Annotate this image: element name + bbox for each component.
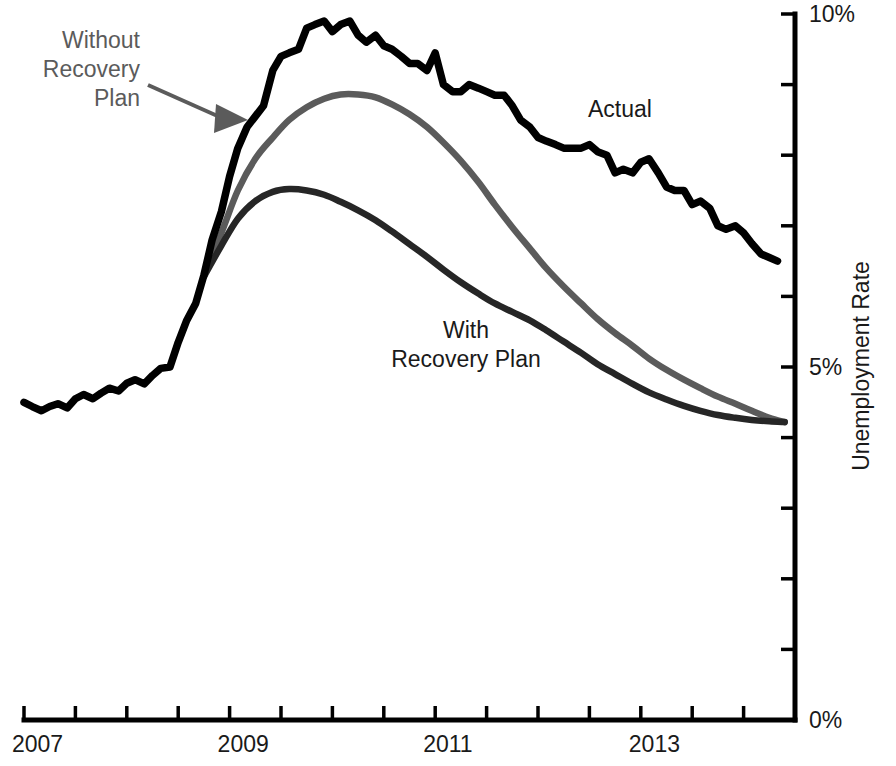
annotation-without-recovery-plan-line3: Plan (94, 85, 140, 111)
annotation-actual: Actual (588, 96, 652, 122)
y-tick-label: 0% (809, 707, 842, 733)
annotation-without-recovery-plan-line2: Recovery (43, 56, 141, 82)
unemployment-rate-line-chart: 2007200920112013 10%5%0% Without Recover… (0, 0, 896, 766)
annotation-without-recovery-plan-line1: Without (62, 27, 141, 53)
series-without-recovery-plan (204, 94, 785, 422)
figure-caption-clipped (0, 752, 896, 766)
chart-container: 2007200920112013 10%5%0% Without Recover… (0, 0, 896, 766)
y-tick-label: 5% (809, 354, 842, 380)
without-recovery-plan-leader-line (148, 85, 222, 118)
annotation-with-recovery-plan-line2: Recovery Plan (391, 346, 541, 372)
y-axis-title: Unemployment Rate (848, 261, 874, 471)
annotation-with-recovery-plan-line1: With (443, 317, 489, 343)
y-tick-label: 10% (809, 1, 855, 27)
